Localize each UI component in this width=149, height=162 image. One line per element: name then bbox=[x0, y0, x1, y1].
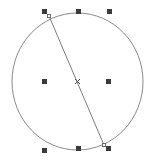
drawing-canvas[interactable]: Drawing canvas bbox=[0, 0, 149, 162]
node-start[interactable] bbox=[47, 14, 51, 18]
circle-outline[interactable] bbox=[12, 13, 143, 150]
handle-bottom-center[interactable] bbox=[76, 146, 81, 151]
handle-middle-right[interactable] bbox=[106, 79, 111, 84]
handle-top-right[interactable] bbox=[107, 9, 112, 14]
node-end[interactable] bbox=[102, 143, 106, 147]
vector-artwork bbox=[0, 0, 149, 162]
handle-top-left[interactable] bbox=[42, 9, 47, 14]
handle-bottom-left[interactable] bbox=[42, 148, 47, 153]
handle-middle-left[interactable] bbox=[42, 79, 47, 84]
chord-line[interactable] bbox=[49, 16, 104, 145]
handle-bottom-right[interactable] bbox=[106, 146, 111, 151]
handle-top-center[interactable] bbox=[76, 9, 81, 14]
